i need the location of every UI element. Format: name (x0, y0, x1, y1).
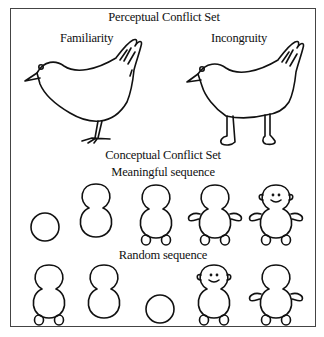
stage-eight-feet-arms-icon (189, 185, 242, 245)
familiarity-bird-icon (25, 39, 142, 143)
stage-eight-feet-icon (140, 185, 171, 245)
meaningful-sequence-figures (31, 184, 302, 245)
stage-circle-icon (146, 295, 174, 323)
stage-full-figure-icon (250, 185, 303, 245)
stage-figure-eight-icon (80, 184, 111, 237)
stage-circle-icon (31, 213, 59, 241)
stage-full-figure-icon (197, 265, 231, 325)
drawings (0, 0, 324, 337)
stage-eight-feet-arms-icon (250, 265, 303, 325)
stage-figure-eight-icon (88, 265, 119, 318)
stage-eight-feet-icon (33, 265, 64, 325)
incongruity-bird-icon (187, 41, 304, 145)
random-sequence-figures (33, 265, 302, 325)
